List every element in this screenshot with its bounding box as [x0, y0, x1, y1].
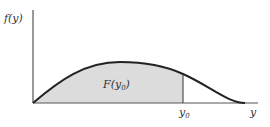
y0-label: y0	[178, 106, 190, 120]
y-axis-label: f(y)	[3, 12, 23, 25]
x-axis-label: y	[249, 106, 257, 119]
density-diagram: f(y) y F(y0) y0	[0, 0, 270, 127]
area-label: F(y0)	[102, 78, 130, 92]
